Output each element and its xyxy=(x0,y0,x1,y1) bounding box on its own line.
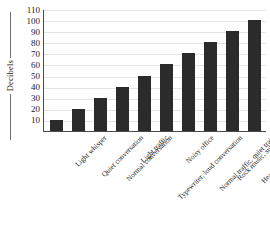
bar xyxy=(160,64,173,131)
y-axis-title-group: Decibels xyxy=(2,12,18,140)
bar xyxy=(72,109,85,131)
y-axis-tick-label: 60 xyxy=(31,61,40,70)
y-axis-tick-label: 100 xyxy=(27,17,41,26)
bar xyxy=(248,20,261,131)
y-axis-tick-label: 110 xyxy=(27,6,40,15)
bar xyxy=(116,87,129,131)
x-axis-tick-label: Normal traffic, quiet train xyxy=(218,134,270,193)
y-axis-title: Decibels xyxy=(5,58,15,93)
y-axis-tick-label: 90 xyxy=(31,28,40,37)
bar xyxy=(50,120,63,131)
bar xyxy=(138,76,151,131)
plot-area xyxy=(43,10,266,132)
x-axis-tick-label: Light whisper xyxy=(74,134,108,168)
y-axis-tick-label: 80 xyxy=(31,39,40,48)
y-axis-tick-label: 20 xyxy=(31,105,40,114)
bars-layer xyxy=(44,10,266,131)
decibels-bar-chart: Decibels 102030405060708090100110 Light … xyxy=(0,0,270,243)
y-axis-tick-label: 50 xyxy=(31,72,40,81)
y-axis-tick-label: 10 xyxy=(31,116,40,125)
y-axis-tick-label: 70 xyxy=(31,50,40,59)
y-axis-tick-labels: 102030405060708090100110 xyxy=(18,10,40,132)
y-axis-title-leader-line-top xyxy=(10,12,11,58)
y-axis-tick-label: 40 xyxy=(31,83,40,92)
bar xyxy=(182,53,195,131)
x-axis-tick-labels: Light whisperQuiet conversationNormal co… xyxy=(43,132,266,240)
bar xyxy=(204,42,217,131)
y-axis-tick-label: 30 xyxy=(31,94,40,103)
bar xyxy=(94,98,107,131)
bar xyxy=(226,31,239,131)
y-axis-title-leader-line-bottom xyxy=(10,94,11,140)
